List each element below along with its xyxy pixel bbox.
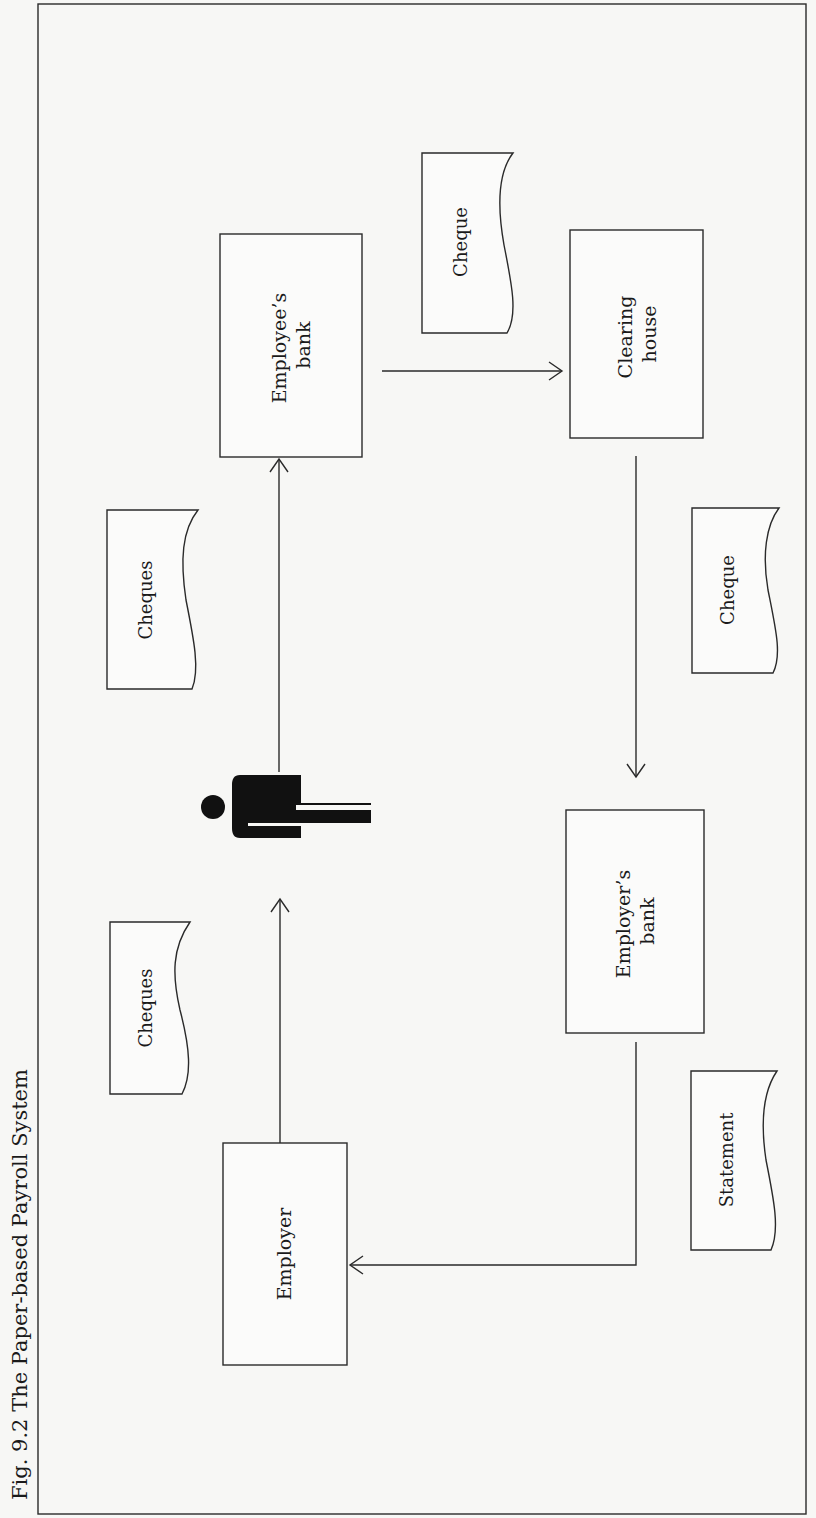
svg-text:Statement: Statement bbox=[716, 1112, 737, 1207]
svg-text:Cheque: Cheque bbox=[450, 207, 471, 277]
svg-text:Cheques: Cheques bbox=[135, 968, 156, 1047]
flow-employer-to-employee bbox=[271, 899, 289, 1143]
document-cheques-1: Cheques bbox=[110, 922, 190, 1094]
document-statement: Statement bbox=[691, 1071, 777, 1250]
svg-text:Cheque: Cheque bbox=[717, 555, 738, 625]
employee-person-icon bbox=[201, 775, 371, 838]
svg-text:Employer: Employer bbox=[273, 1207, 295, 1301]
node-employers-bank: Employer’s bank bbox=[566, 810, 704, 1033]
document-cheque-right: Cheque bbox=[692, 508, 779, 673]
figure-caption: Fig. 9.2 The Paper-based Payroll System bbox=[8, 1069, 32, 1500]
flow-employees-bank-to-clearing-house bbox=[382, 362, 562, 380]
node-employer: Employer bbox=[223, 1143, 347, 1365]
document-cheque-top: Cheque bbox=[422, 153, 513, 333]
flow-employee-to-employees-bank bbox=[270, 459, 288, 772]
document-cheques-2: Cheques bbox=[107, 510, 198, 689]
node-clearing-house: Clearing house bbox=[570, 230, 703, 438]
payroll-diagram: Fig. 9.2 The Paper-based Payroll System … bbox=[0, 0, 816, 1518]
svg-text:Cheques: Cheques bbox=[135, 560, 156, 639]
scanned-book-page: Fig. 9.2 The Paper-based Payroll System … bbox=[0, 0, 816, 1518]
flow-clearing-house-to-employers-bank bbox=[627, 456, 645, 777]
node-employees-bank: Employee’s bank bbox=[220, 234, 362, 457]
flow-employers-bank-to-employer bbox=[350, 1042, 636, 1274]
